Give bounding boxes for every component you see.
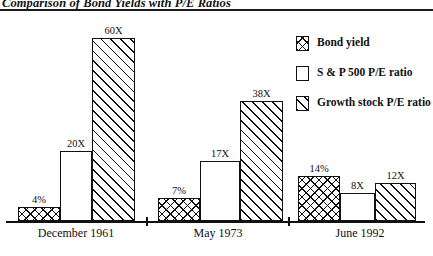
bar-value-label: 8X	[351, 180, 364, 191]
legend-swatch-crosshatch-icon	[296, 36, 309, 51]
bar	[158, 198, 200, 221]
bar-value-label: 7%	[172, 185, 186, 196]
legend-label-sp500-pe-ratio: S & P 500 P/E ratio	[317, 66, 413, 78]
group-label: May 1973	[194, 226, 243, 241]
bar-value-label: 14%	[309, 163, 328, 174]
group-label: December 1961	[38, 226, 114, 241]
bar-value-label: 17X	[211, 148, 229, 159]
bar	[60, 151, 92, 221]
bar	[92, 38, 135, 221]
group-label: June 1992	[336, 226, 385, 241]
chart-container: Comparison of Bond Yields with P/E Ratio…	[0, 0, 433, 256]
axis-tick	[146, 217, 148, 226]
x-axis-line	[6, 221, 425, 223]
bar	[200, 161, 240, 221]
legend-swatch-plain-icon	[296, 66, 309, 81]
axis-tick	[288, 217, 290, 226]
bar	[375, 183, 416, 221]
legend-label-growth-stock-pe-ratio: Growth stock P/E ratio	[317, 96, 431, 108]
legend-swatch-diagonal-icon	[296, 96, 309, 111]
bar-value-label: 60X	[104, 25, 122, 36]
bar-value-label: 12X	[386, 170, 404, 181]
bar-value-label: 20X	[67, 138, 85, 149]
bar-value-label: 4%	[32, 194, 46, 205]
bar	[298, 176, 340, 221]
legend-label-bond-yield: Bond yield	[317, 36, 370, 48]
bar-value-label: 38X	[252, 88, 270, 99]
bar	[340, 193, 375, 221]
bar	[240, 101, 283, 221]
bar	[18, 207, 60, 221]
